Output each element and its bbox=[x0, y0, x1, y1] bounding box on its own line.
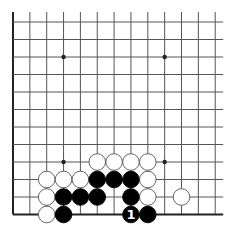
black-stone[interactable] bbox=[55, 206, 72, 223]
white-stone[interactable] bbox=[106, 154, 123, 171]
black-stone[interactable] bbox=[140, 206, 157, 223]
white-stone[interactable] bbox=[55, 171, 72, 188]
white-stone[interactable] bbox=[140, 171, 157, 188]
black-stone[interactable] bbox=[106, 171, 123, 188]
white-stone[interactable] bbox=[38, 171, 55, 188]
star-point bbox=[61, 160, 65, 164]
move-number-label: 1 bbox=[126, 207, 135, 222]
go-board-grid: 1 bbox=[0, 0, 236, 227]
white-stone[interactable] bbox=[72, 171, 89, 188]
black-stone[interactable] bbox=[89, 171, 106, 188]
white-stone[interactable] bbox=[173, 189, 190, 206]
white-stone[interactable] bbox=[140, 154, 157, 171]
white-stone[interactable] bbox=[123, 154, 140, 171]
black-stone[interactable] bbox=[55, 189, 72, 206]
black-stone[interactable] bbox=[123, 189, 140, 206]
go-board[interactable]: 1 bbox=[0, 0, 236, 227]
star-point bbox=[162, 55, 166, 59]
white-stone[interactable] bbox=[38, 189, 55, 206]
star-point bbox=[162, 160, 166, 164]
star-point bbox=[61, 55, 65, 59]
black-stone[interactable] bbox=[123, 171, 140, 188]
white-stone[interactable] bbox=[140, 189, 157, 206]
black-stone[interactable] bbox=[89, 189, 106, 206]
black-stone[interactable] bbox=[72, 189, 89, 206]
white-stone[interactable] bbox=[38, 206, 55, 223]
white-stone[interactable] bbox=[89, 154, 106, 171]
